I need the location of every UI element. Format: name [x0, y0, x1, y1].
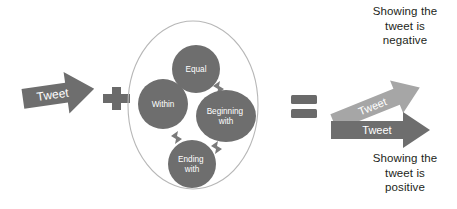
node-within[interactable]: Within — [138, 79, 188, 129]
equals-bar-bottom — [291, 109, 317, 118]
node-ending-with[interactable]: Ending with — [168, 140, 216, 188]
output-negative-caption: Showing the tweet is negative — [355, 4, 455, 48]
cycle-arrow-ending-to-within — [171, 131, 182, 144]
node-equal-label: Equal — [186, 65, 207, 74]
plus-icon — [103, 87, 130, 110]
equals-operator — [291, 95, 317, 118]
input-tweet-arrow: Tweet — [20, 68, 97, 120]
output-positive-arrow-label: Tweet — [362, 124, 391, 136]
equals-bar-top — [291, 95, 317, 104]
node-within-label: Within — [152, 100, 175, 109]
tweet-sentiment-diagram: Tweet Equal Within — [0, 0, 457, 209]
plus-operator — [103, 87, 130, 110]
node-beginning-with[interactable]: Beginning with — [196, 90, 256, 142]
output-positive-caption: Showing the tweet is positive — [355, 151, 455, 195]
